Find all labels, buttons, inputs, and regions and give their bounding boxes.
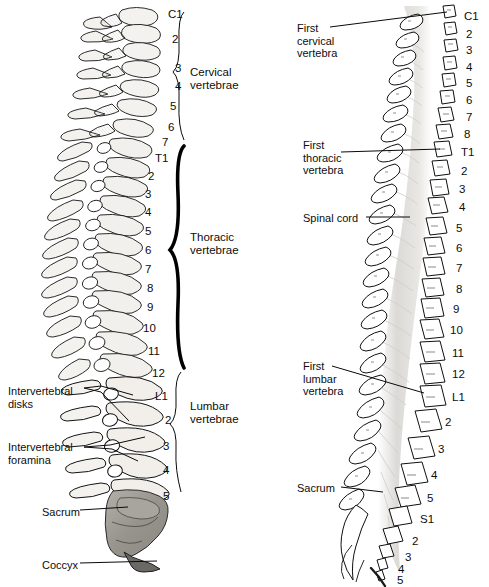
right-vertebra-number-4: 4 [466,61,472,73]
cervical-brace [173,12,184,140]
left-vertebra-number-7: 7 [162,136,168,148]
right-vertebra-number-8: 8 [456,283,462,295]
left-vertebra-number-3: 3 [145,188,151,200]
right-vertebra-number-8: 8 [464,128,470,140]
right-vertebra-number-7: 7 [466,111,472,123]
right-vertebra-number-5: 5 [427,492,433,504]
right-vertebra-number-2: 2 [445,416,451,428]
posterior-sacrum [341,505,368,580]
left-vertebra-number-5: 5 [170,100,176,112]
right-vertebra-number-6: 6 [466,94,472,106]
right-vertebra-number-2: 2 [412,535,418,547]
left-vertebra-number-4: 4 [175,80,181,92]
right-vertebra-number-c1: C1 [464,10,479,22]
right-vertebra-number-t1: T1 [461,146,474,158]
intervertebral-disks: Intervertebral disks [8,385,73,410]
thoracic-brace [170,146,184,368]
right-vertebra-number-s1: S1 [420,513,434,525]
right-vertebra-number-9: 9 [453,303,459,315]
first-thoracic-vertebra: First thoracic vertebra [303,139,343,177]
left-vertebra-number-2: 2 [172,33,178,45]
left-vertebra-number-4: 4 [145,206,151,218]
lumbar-group: Lumbar vertebrae [190,400,239,426]
first-lumbar-vertebra: First lumbar vertebra [303,360,343,398]
left-vertebra-number-6: 6 [145,244,151,256]
first-cervical-vertebra: First cervical vertebra [297,22,337,60]
right-vertebra-number-6: 6 [456,242,462,254]
left-vertebra-number-5: 5 [163,490,169,502]
lumbar-brace [170,372,181,492]
left-lateral-spine-drawing [42,8,184,573]
right-vertebra-number-3: 3 [438,443,444,455]
left-vertebra-number-5: 5 [145,225,151,237]
sacrum-shape [105,490,168,572]
right-vertebra-number-12: 12 [452,368,465,380]
left-vertebra-number-11: 11 [148,345,160,357]
left-vertebra-number-2: 2 [165,414,171,426]
left-vertebra-number-3: 3 [175,62,181,74]
right-vertebra-number-3: 3 [466,44,472,56]
right-vertebra-number-2: 2 [466,28,472,40]
right-vertebra-number-2: 2 [461,165,467,177]
left-vertebra-number-8: 8 [147,282,153,294]
right-vertebra-number-5: 5 [466,77,472,89]
left-vertebra-number-2: 2 [148,170,154,182]
left-vertebra-number-3: 3 [163,440,169,452]
right-vertebra-number-10: 10 [450,324,463,336]
right-vertebra-number-3: 3 [405,551,411,563]
left-vertebra-number-12: 12 [152,367,165,379]
intervertebral-foramina: Intervertebral foramina [8,441,73,466]
right-vertebra-number-11: 11 [452,347,464,359]
right-vertebra-number-5: 5 [456,222,462,234]
right-vertebra-number-l1: L1 [452,391,465,403]
left-vertebra-number-l1: L1 [155,390,168,402]
left-vertebra-number-7: 7 [145,263,151,275]
right-vertebra-number-4: 4 [431,469,437,481]
right-posterior-spine-drawing [330,5,458,586]
left-vertebra-number-c1: C1 [168,8,183,20]
right-vertebra-number-3: 3 [459,183,465,195]
left-vertebra-number-4: 4 [163,464,169,476]
left-vertebra-number-6: 6 [168,121,174,133]
thoracic-group: Thoracic vertebrae [190,231,239,257]
coccyx: Coccyx [42,559,78,572]
left-vertebra-number-9: 9 [147,301,153,313]
left-vertebra-number-t1: T1 [155,152,168,164]
cervical-group: Cervical vertebrae [190,66,239,92]
sacrum: Sacrum [297,482,335,495]
right-vertebra-number-7: 7 [456,262,462,274]
right-vertebra-number-5: 5 [397,574,403,586]
left-vertebra-number-10: 10 [143,322,156,334]
spinal-cord: Spinal cord [303,212,358,225]
spine-figure [0,0,489,587]
right-vertebra-number-4: 4 [459,201,465,213]
sacrum: Sacrum [42,506,80,519]
